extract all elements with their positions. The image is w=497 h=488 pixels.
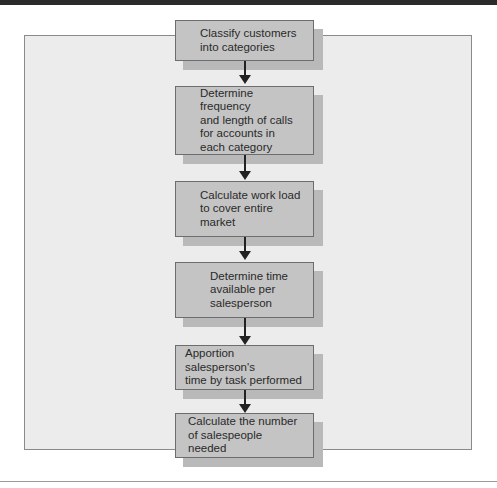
arrow-down-icon: [239, 75, 251, 84]
arrow-down-icon: [239, 336, 251, 345]
connector-line: [244, 318, 246, 338]
arrow-down-icon: [239, 251, 251, 260]
flow-step-label: Calculate the number of salespeople need…: [188, 415, 303, 456]
top-bar: [0, 0, 497, 5]
arrow-down-icon: [239, 404, 251, 413]
flow-step-label: Determine frequency and length of calls …: [200, 87, 303, 155]
divider: [0, 481, 497, 482]
flow-step-5: Apportion salesperson's time by task per…: [175, 345, 314, 390]
flow-step-label: Determine time available per salesperson: [210, 270, 288, 311]
flow-step-label: Calculate work load to cover entire mark…: [200, 189, 300, 230]
flow-step-3: Calculate work load to cover entire mark…: [175, 181, 314, 237]
flow-step-label: Apportion salesperson's time by task per…: [185, 347, 303, 388]
flow-step-2: Determine frequency and length of calls …: [175, 86, 314, 155]
arrow-down-icon: [239, 171, 251, 180]
flow-step-6: Calculate the number of salespeople need…: [175, 413, 314, 458]
flow-step-1: Classify customers into categories: [175, 20, 314, 61]
flow-step-label: Classify customers into categories: [200, 27, 297, 54]
flow-step-4: Determine time available per salesperson: [175, 262, 314, 318]
